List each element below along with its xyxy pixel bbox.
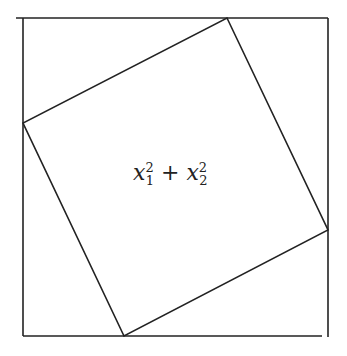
- area-label: x21 + x22: [133, 160, 207, 188]
